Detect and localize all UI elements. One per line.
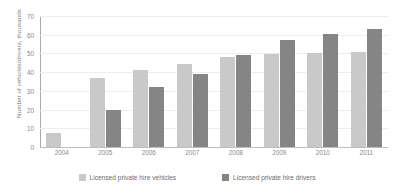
legend: Licensed private hire vehiclesLicensed p… (0, 174, 394, 181)
x-tick-label: 2010 (301, 149, 345, 156)
y-tick-label: 20 (0, 106, 34, 113)
y-tick-label: 40 (0, 69, 34, 76)
y-tick-label: 10 (0, 125, 34, 132)
bar-group (258, 16, 302, 147)
x-tick-label: 2005 (84, 149, 128, 156)
plot-area (40, 16, 388, 147)
bar-chart: Number of vehicles/drivers, thousands 01… (0, 0, 394, 196)
legend-label: Licensed private hire vehicles (90, 174, 177, 181)
x-tick-label: 2009 (258, 149, 302, 156)
bar[interactable] (351, 52, 366, 147)
gridline (40, 147, 388, 148)
bar-group (301, 16, 345, 147)
y-axis-tick-labels: 010203040506070 (0, 16, 36, 147)
legend-item[interactable]: Licensed private hire drivers (222, 174, 315, 181)
bar[interactable] (280, 40, 295, 147)
bar[interactable] (307, 53, 322, 147)
bar-group (40, 16, 84, 147)
bar-group (127, 16, 171, 147)
bar[interactable] (264, 54, 279, 147)
bar[interactable] (46, 133, 61, 147)
bar[interactable] (177, 64, 192, 147)
bar[interactable] (193, 74, 208, 147)
bar[interactable] (106, 110, 121, 147)
bar[interactable] (90, 78, 105, 147)
x-tick-label: 2004 (40, 149, 84, 156)
legend-item[interactable]: Licensed private hire vehicles (79, 174, 177, 181)
y-tick-label: 60 (0, 31, 34, 38)
x-axis-tick-labels: 20042005200620072008200920102011 (40, 149, 388, 156)
x-tick-label: 2007 (171, 149, 215, 156)
legend-swatch-icon (79, 174, 86, 181)
y-tick-label: 50 (0, 50, 34, 57)
bar-group (345, 16, 389, 147)
bar-groups (40, 16, 388, 147)
bar[interactable] (220, 57, 235, 147)
bar[interactable] (133, 70, 148, 147)
bar-group (171, 16, 215, 147)
bar[interactable] (367, 29, 382, 147)
bar-group (214, 16, 258, 147)
x-tick-label: 2008 (214, 149, 258, 156)
y-tick-label: 0 (0, 144, 34, 151)
x-tick-label: 2011 (345, 149, 389, 156)
bar[interactable] (149, 87, 164, 147)
legend-label: Licensed private hire drivers (233, 174, 315, 181)
bar[interactable] (236, 55, 251, 147)
x-tick-label: 2006 (127, 149, 171, 156)
y-tick-label: 30 (0, 87, 34, 94)
y-tick-label: 70 (0, 13, 34, 20)
bar[interactable] (323, 34, 338, 147)
bar-group (84, 16, 128, 147)
legend-swatch-icon (222, 174, 229, 181)
